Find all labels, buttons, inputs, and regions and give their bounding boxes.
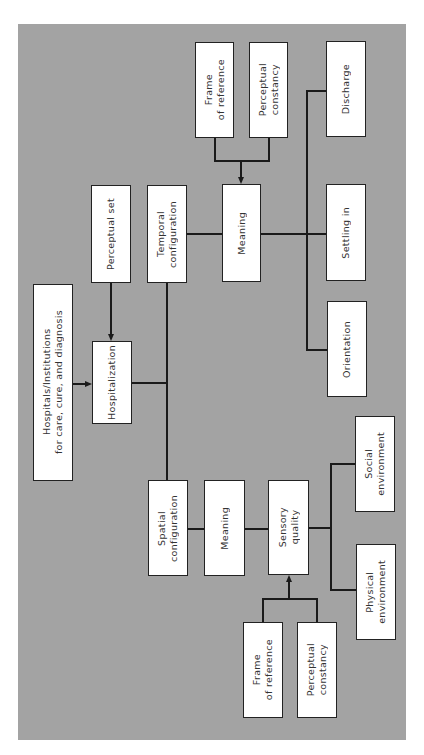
frame-of-reference-top-label: Frame of reference <box>203 59 227 120</box>
connector-line <box>330 463 332 591</box>
perceptual-set-box: Perceptual set <box>91 185 131 283</box>
hospitals-institutions-label: Hospitals/Institutions for care, cure, a… <box>41 310 65 454</box>
meaning-temporal-box: Meaning <box>222 184 261 282</box>
connector-line <box>110 283 112 334</box>
orientation-label: Orientation <box>341 321 353 378</box>
frame-of-reference-bottom-label: Frame of reference <box>251 639 275 700</box>
connector-line <box>330 589 356 591</box>
connector-line <box>306 90 326 92</box>
connector-line <box>132 382 168 384</box>
spatial-configuration-label: Spatial configuration <box>156 495 180 562</box>
settling-in-label: Settling in <box>340 207 352 259</box>
connector-line <box>268 138 270 161</box>
connector-line <box>261 233 326 235</box>
perceptual-constancy-top-label: Perceptual constancy <box>257 63 281 116</box>
discharge-box: Discharge <box>326 41 366 137</box>
meaning-temporal-label: Meaning <box>236 212 248 255</box>
perceptual-set-label: Perceptual set <box>105 198 117 270</box>
meaning-spatial-label: Meaning <box>219 507 231 550</box>
perceptual-constancy-bottom-box: Perceptual constancy <box>297 622 337 718</box>
arrow-up-icon <box>286 575 292 582</box>
orientation-box: Orientation <box>327 301 367 397</box>
arrow-down-icon <box>108 334 114 341</box>
settling-in-box: Settling in <box>326 184 366 281</box>
connector-line <box>214 160 270 162</box>
discharge-label: Discharge <box>340 64 352 114</box>
connector-line <box>262 598 318 600</box>
hospitalization-label: Hospitalization <box>106 345 118 420</box>
arrow-right-icon <box>85 381 92 387</box>
connector-line <box>188 528 204 530</box>
connector-line <box>288 582 290 599</box>
connector-line <box>330 463 355 465</box>
social-environment-label: Social environment <box>363 432 387 496</box>
connector-line <box>316 599 318 622</box>
connector-line <box>262 599 264 622</box>
connector-line <box>306 90 308 351</box>
connector-line <box>309 527 331 529</box>
hospitals-institutions-box: Hospitals/Institutions for care, cure, a… <box>33 284 73 481</box>
connector-line <box>214 138 216 161</box>
frame-of-reference-bottom-box: Frame of reference <box>243 622 283 718</box>
temporal-configuration-box: Temporal configuration <box>147 185 187 283</box>
spatial-configuration-box: Spatial configuration <box>148 480 188 576</box>
social-environment-box: Social environment <box>355 416 395 512</box>
connector-line <box>245 528 268 530</box>
connector-line <box>240 160 242 177</box>
connector-line <box>187 233 222 235</box>
frame-of-reference-top-box: Frame of reference <box>195 42 234 138</box>
physical-environment-box: Physical environment <box>356 544 396 640</box>
sensory-quality-label: Sensory quality <box>277 507 301 547</box>
sensory-quality-box: Sensory quality <box>268 480 309 575</box>
meaning-spatial-box: Meaning <box>204 480 245 576</box>
perceptual-constancy-bottom-label: Perceptual constancy <box>305 643 329 696</box>
connector-line <box>73 383 85 385</box>
arrow-down-icon <box>238 177 244 184</box>
temporal-configuration-label: Temporal configuration <box>155 201 179 268</box>
physical-environment-label: Physical environment <box>364 560 388 624</box>
hospitalization-box: Hospitalization <box>92 341 132 424</box>
connector-line <box>306 349 327 351</box>
connector-line <box>166 283 168 480</box>
perceptual-constancy-top-box: Perceptual constancy <box>249 42 288 138</box>
